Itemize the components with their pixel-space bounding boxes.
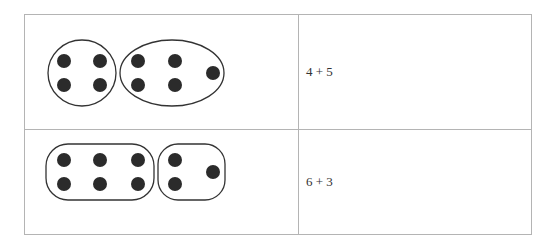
expression-row-1: 4 + 5 <box>306 64 333 80</box>
dot <box>206 66 220 80</box>
dot <box>131 153 145 167</box>
dot <box>57 78 71 92</box>
dot <box>93 153 107 167</box>
dot <box>93 177 107 191</box>
group-of-six-outline <box>46 144 154 200</box>
dot-groups-4-and-5 <box>25 15 298 129</box>
dot <box>57 153 71 167</box>
dot <box>131 78 145 92</box>
addition-table: 4 + 5 6 + 3 <box>24 14 532 235</box>
expression-row-2: 6 + 3 <box>306 174 333 190</box>
dot <box>168 54 182 68</box>
dot <box>131 177 145 191</box>
dot <box>93 54 107 68</box>
dot <box>168 177 182 191</box>
dot <box>206 165 220 179</box>
group-of-four-outline <box>48 40 116 106</box>
dot <box>93 78 107 92</box>
dot-groups-6-and-3 <box>25 130 298 235</box>
dot <box>168 78 182 92</box>
dot <box>131 54 145 68</box>
column-divider <box>298 15 299 234</box>
dot <box>57 54 71 68</box>
dot <box>57 177 71 191</box>
dot <box>168 153 182 167</box>
